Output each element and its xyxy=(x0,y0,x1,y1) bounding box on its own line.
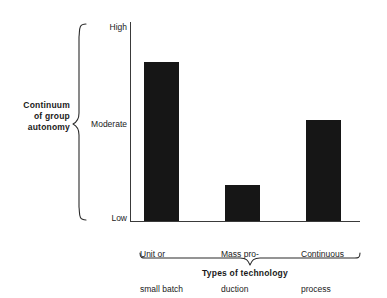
bar-unit-or-small-batch xyxy=(144,62,179,221)
x-category-label-2-line-1: Continuous xyxy=(301,249,344,261)
x-category-label-2-line-2: process xyxy=(301,284,344,296)
x-category-label-0-line-2: small batch xyxy=(140,284,183,296)
x-axis-title: Types of technology xyxy=(130,268,360,278)
x-category-label-1-line-1: Mass pro- xyxy=(221,249,259,261)
x-category-label-1-line-2: duction xyxy=(221,284,259,296)
x-category-label-2: Continuous process xyxy=(301,226,344,298)
bar-mass-production xyxy=(225,185,260,221)
bar-continuous-process xyxy=(306,120,341,221)
x-category-label-0-line-1: Unit or xyxy=(140,249,183,261)
x-category-label-0: Unit or small batch xyxy=(140,226,183,298)
x-category-label-1: Mass pro- duction xyxy=(221,226,259,298)
